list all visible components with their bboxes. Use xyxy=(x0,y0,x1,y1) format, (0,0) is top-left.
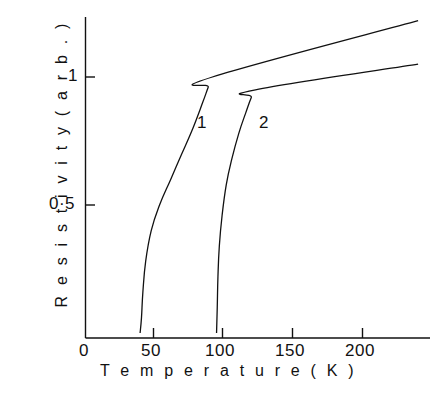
x-tick-label-100: 100 xyxy=(205,341,235,361)
curve-label-2: 2 xyxy=(259,113,268,133)
resistivity-vs-temperature-figure: 1 0·5 0 50 100 150 200 1 2 T e m p e r a… xyxy=(0,0,434,394)
x-tick-label-0: 0 xyxy=(79,341,89,361)
curve-label-1: 1 xyxy=(197,113,206,133)
curve-series-1 xyxy=(140,21,418,333)
x-tick-label-50: 50 xyxy=(141,341,161,361)
x-axis-title: T e m p e r a t u r e ( K ) xyxy=(100,362,420,380)
x-tick-label-200: 200 xyxy=(345,341,375,361)
curve-series-2 xyxy=(217,64,419,333)
x-tick-label-150: 150 xyxy=(275,341,305,361)
y-axis-title: R e s i s t i v i t y ( a r b . ) xyxy=(53,4,71,324)
